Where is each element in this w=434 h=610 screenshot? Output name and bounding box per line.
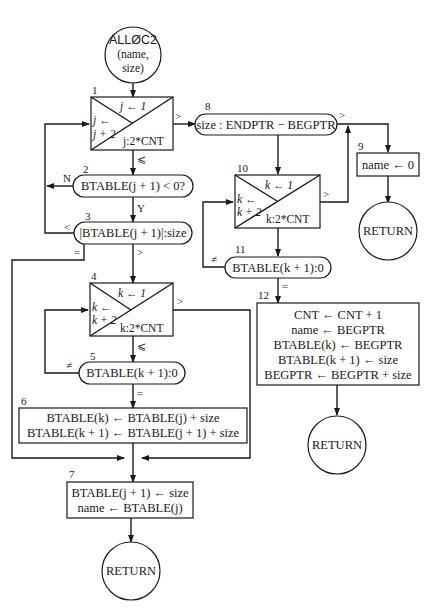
decision-text: size : ENDPTR − BEGPTR (197, 118, 337, 132)
decision-text: BTABLE(k + 1):0 (86, 366, 177, 380)
start-param-name: (name, (117, 48, 149, 61)
return-label: RETURN (312, 438, 362, 452)
step-number-11: 11 (235, 243, 246, 255)
assignment-line: BTABLE(k) ← BEGPTR (274, 338, 404, 352)
return-node-2: RETURN (359, 202, 417, 260)
step-number-9: 9 (358, 140, 364, 152)
step-number-6: 6 (21, 395, 27, 407)
assignment-line: name ← BTABLE(j) (77, 501, 182, 515)
loop-inc-2: j + 2 (91, 128, 116, 141)
edge-label-le: ⩽ (137, 340, 146, 352)
step-number-7: 7 (69, 468, 75, 480)
loop-test: j:2*CNT (122, 135, 164, 148)
assignment-line: CNT ← CNT + 1 (294, 308, 382, 322)
loop-test: k:2*CNT (266, 213, 309, 225)
loop-box-4: 4 k ← 1 k ← k + 2 k:2*CNT (90, 270, 173, 336)
edge-label-eq: = (74, 246, 80, 258)
assignment-line: BTABLE(j + 1) ← size (71, 486, 189, 500)
process-box-7: 7 BTABLE(j + 1) ← size name ← BTABLE(j) (67, 468, 193, 518)
assignment-line: name ← BEGPTR (291, 323, 385, 337)
loop-inc-1: k ← (92, 301, 111, 313)
loop-inc-1: j ← (91, 114, 111, 127)
edge-label-gt: > (137, 246, 143, 258)
edge-label-gt: > (175, 110, 181, 122)
step-number-10: 10 (237, 162, 249, 174)
loop-inc-1: k ← (237, 193, 256, 205)
return-label: RETURN (106, 564, 156, 578)
return-node-3: RETURN (308, 416, 366, 474)
decision-box-8: 8 size : ENDPTR − BEGPTR (195, 100, 337, 135)
assignment-line: BTABLE(k + 1) ← size (278, 353, 398, 367)
step-number-3: 3 (85, 210, 91, 222)
assignment-line: BEGPTR ← BEGPTR + size (264, 368, 412, 382)
edge-label-yes: Y (137, 202, 145, 214)
edge-label-eq: = (137, 387, 143, 399)
edge-label-gt: > (323, 188, 329, 200)
step-number-8: 8 (205, 100, 211, 112)
loop-box-1: 1 j ← 1 j ← j + 2 j:2*CNT (91, 84, 173, 150)
edge-label-eq: = (282, 280, 288, 292)
loop-init: j ← 1 (118, 100, 146, 113)
loop-test: k:2*CNT (120, 322, 163, 334)
step-number-1: 1 (92, 84, 98, 96)
assignment-line: BTABLE(k + 1) ← BTABLE(j + 1) + size (27, 426, 240, 440)
assignment-line: BTABLE(k) ← BTABLE(j) + size (46, 411, 220, 425)
start-node: ALLØC2 (name, size) (105, 27, 161, 83)
decision-text: BTABLE(k + 1):0 (232, 261, 323, 275)
step-number-12: 12 (258, 289, 269, 301)
edge-label-ne: ≠ (66, 359, 72, 371)
step-number-2: 2 (83, 163, 89, 175)
return-label: RETURN (363, 224, 413, 238)
loop-inc-2: k + 2 (237, 206, 262, 218)
step-number-4: 4 (91, 270, 97, 282)
loop-init: k ← 1 (265, 179, 293, 191)
start-title: ALLØC2 (109, 33, 157, 47)
decision-text: BTABLE(j + 1) < 0? (81, 179, 186, 193)
decision-box-5: 5 BTABLE(k + 1):0 (79, 350, 185, 384)
edge-label-ne: ≠ (211, 253, 217, 265)
return-node-1: RETURN (102, 542, 160, 600)
loop-inc-2: k + 2 (92, 314, 117, 326)
edge-label-no: N (63, 172, 71, 184)
step-number-5: 5 (90, 350, 96, 362)
edge-label-le: ⩽ (137, 153, 146, 165)
edge-label-gt: > (177, 295, 183, 307)
decision-text: |BTABLE(j + 1)|:size (80, 226, 187, 240)
edge-label-lt: < (64, 221, 70, 233)
process-box-12: 12 CNT ← CNT + 1 name ← BEGPTR BTABLE(k)… (257, 289, 419, 385)
edge-label-gt: > (339, 109, 345, 121)
start-param-size: size) (122, 62, 144, 75)
loop-init: k ← 1 (118, 287, 146, 299)
assignment-line: name ← 0 (362, 158, 414, 172)
flowchart: ALLØC2 (name, size) 1 j ← 1 j ← j + 2 j:… (0, 0, 434, 610)
